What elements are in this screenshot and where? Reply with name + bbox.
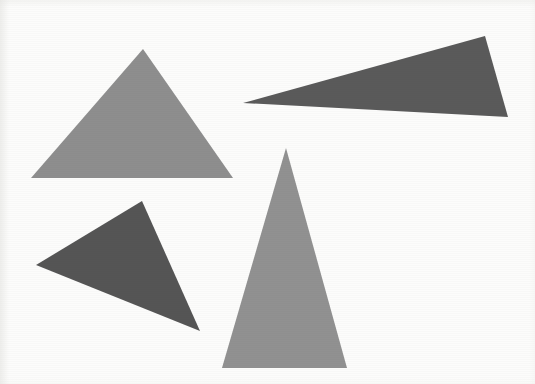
- triangles-svg: Four shaded triangles on a plain light b…: [0, 0, 535, 384]
- figure-canvas: Four shaded triangles on a plain light b…: [0, 0, 535, 384]
